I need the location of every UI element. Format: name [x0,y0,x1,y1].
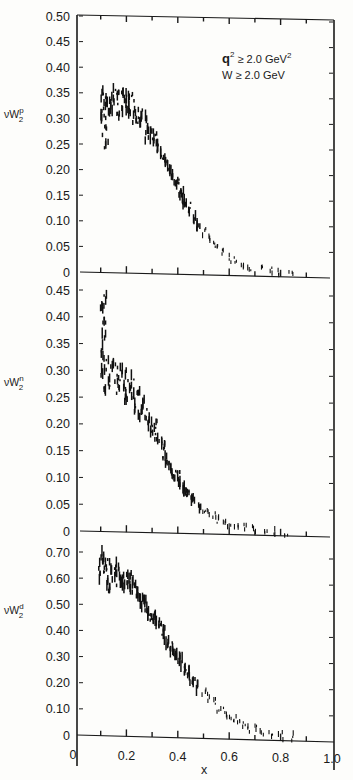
y-tick-label: 0.10 [46,214,70,228]
y-tick-label: 0.40 [46,61,70,75]
y-tick-label: 0.60 [46,572,70,586]
y-axis-label-top: νWp2 [4,106,24,124]
y-tick-label: 0.25 [46,138,70,152]
x-tick-label: 0.4 [169,750,186,764]
y-tick-label: 0.20 [46,417,70,431]
y-tick-label: 0.30 [46,112,70,126]
y-tick-label: 0 [63,266,70,280]
data-series-proton [101,83,293,277]
panel-divider-middle [80,531,330,537]
y-tick-label: 0.10 [46,702,70,716]
y-tick-label: 0.45 [46,284,70,298]
panel-top: 00.050.100.150.200.250.300.350.400.450.5… [4,10,333,280]
y-axis-label-middle: νWn2 [4,374,24,392]
y-tick-label: 0 [63,525,70,539]
y-tick-label: 0.35 [46,337,70,351]
frame-bottom [77,735,334,742]
w-cut-label: W ≥ 2.0 GeV [222,69,286,81]
x-tick-label: 1.0 [323,752,340,766]
panel-bottom: 00.100.200.300.400.500.600.70νWd2 [4,545,333,743]
q2-cut-label: q2 ≥ 2.0 GeV2 [222,50,292,66]
y-tick-label: 0.25 [46,391,70,405]
y-tick-label: 0.40 [46,310,70,324]
y-tick-label: 0.35 [46,86,70,100]
y-tick-label: 0.70 [46,546,70,560]
y-tick-label: 0.05 [46,240,70,254]
y-tick-label: 0.10 [46,471,70,485]
y-tick-label: 0.30 [46,364,70,378]
kinematic-cuts-annotation: q2 ≥ 2.0 GeV2 W ≥ 2.0 GeV [222,50,292,81]
y-tick-label: 0.15 [46,189,70,203]
data-series-deuteron [99,545,293,743]
y-tick-label: 0.15 [46,444,70,458]
panel-middle: 00.050.100.150.200.250.300.350.400.45νWn… [4,284,333,539]
x-axis-label: x [201,763,208,777]
y-tick-label: 0.30 [46,650,70,664]
structure-function-plot: 00.050.100.150.200.250.300.350.400.450.5… [0,0,353,780]
x-tick-label: 0.6 [221,750,238,764]
frame-top [77,15,334,20]
y-axis-label-bottom: νWd2 [4,602,24,620]
y-tick-label: 0.40 [46,624,70,638]
y-tick-label: 0 [63,729,70,743]
data-series-neutron [101,290,288,538]
y-tick-label: 0.45 [46,35,70,49]
y-tick-label: 0.50 [46,10,70,24]
figure: 00.050.100.150.200.250.300.350.400.450.5… [0,0,353,780]
y-tick-label: 0.20 [46,676,70,690]
y-tick-label: 0.20 [46,163,70,177]
x-tick-label: 0.8 [272,751,289,765]
x-tick-label: 0.2 [118,749,135,763]
x-tick-label: 0 [70,748,77,762]
y-tick-label: 0.05 [46,498,70,512]
y-tick-label: 0.50 [46,598,70,612]
